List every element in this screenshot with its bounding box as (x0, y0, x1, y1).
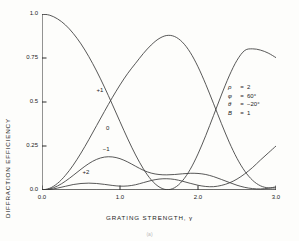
y-tick-label: 0.5 (8, 98, 38, 104)
parameter-value: 2 (247, 83, 262, 92)
curve--1 (42, 157, 276, 190)
parameter-symbol: ρ (228, 83, 239, 92)
parameter-value: −20° (247, 100, 262, 109)
parameter-equals: = (239, 92, 247, 101)
figure-container: DIFFRACTION EFFICIENCY GRATING STRENGTH,… (0, 0, 299, 241)
parameter-row: φ=60° (228, 92, 262, 101)
y-tick-label: 0.75 (8, 54, 38, 60)
parameter-value: 1 (247, 109, 262, 118)
parameter-annotation-box: ρ=2φ=60°θ=−20°B=1 (228, 83, 262, 117)
parameter-symbol: θ (228, 100, 239, 109)
parameter-row: ρ=2 (228, 83, 262, 92)
figure-caption: (a) (0, 231, 299, 237)
y-tick-label: 0.25 (8, 142, 38, 148)
parameter-value: 60° (247, 92, 262, 101)
y-axis-title: DIFFRACTION EFFICIENCY (4, 118, 11, 218)
curve-+2 (42, 146, 276, 190)
x-tick-label: 1.0 (105, 194, 135, 200)
parameter-equals: = (239, 100, 247, 109)
y-tick-label: 0.0 (8, 186, 38, 192)
x-tick-label: 0.0 (27, 194, 57, 200)
parameter-row: θ=−20° (228, 100, 262, 109)
parameter-table: ρ=2φ=60°θ=−20°B=1 (228, 83, 262, 117)
parameter-equals: = (239, 83, 247, 92)
x-tick-label: 3.0 (261, 194, 291, 200)
parameter-equals: = (239, 109, 247, 118)
parameter-row: B=1 (228, 109, 262, 118)
y-tick-label: 1.0 (8, 10, 38, 16)
x-axis-title: GRATING STRENGTH, γ (0, 214, 299, 221)
parameter-symbol: φ (228, 92, 239, 101)
x-tick-label: 2.0 (183, 194, 213, 200)
parameter-symbol: B (228, 109, 239, 118)
